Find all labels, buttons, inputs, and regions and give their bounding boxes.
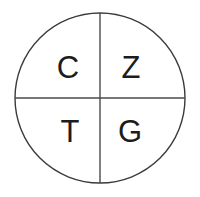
quadrant-label-bottom-left: T [61,114,80,149]
diagram-canvas: C Z T G [0,0,200,197]
quartered-circle-diagram: C Z T G [0,0,200,197]
quadrant-label-top-right: Z [122,50,141,85]
quadrant-label-bottom-right: G [118,114,142,149]
quadrant-label-top-left: C [57,50,79,85]
